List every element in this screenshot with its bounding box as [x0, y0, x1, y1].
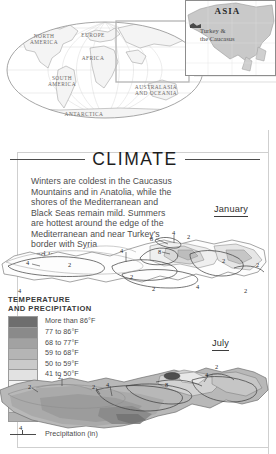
- legend-item: 68 to 77°F: [8, 338, 124, 349]
- precip-value: 2: [187, 234, 190, 240]
- precip-value: 2: [28, 384, 31, 390]
- page-title: CLIMATE: [92, 150, 178, 169]
- precip-value: 4: [26, 260, 29, 266]
- section-heading-row: CLIMATE: [10, 146, 260, 172]
- precip-value: 4: [196, 284, 199, 290]
- legend-swatch: [8, 316, 38, 327]
- precip-value: 4: [106, 382, 109, 388]
- precip-value: 2: [152, 286, 155, 292]
- precip-value: 8: [150, 236, 153, 242]
- inset-title: ASIA: [186, 6, 269, 16]
- legend-label: 77 to 86°F: [45, 327, 79, 338]
- legend-item: More than 86°F: [8, 316, 124, 327]
- precip-value: 4: [205, 372, 208, 378]
- july-map-graphic: [0, 356, 270, 452]
- precip-value: 4: [18, 288, 21, 294]
- legend-label: 68 to 77°F: [45, 338, 79, 349]
- precip-value: 2: [68, 262, 71, 268]
- asia-inset-map: ASIA Turkey & the Caucasus: [185, 0, 276, 76]
- legend-item: 77 to 86°F: [8, 327, 124, 338]
- precip-value: 4: [172, 230, 175, 236]
- world-locator-map: NORTH AMERICA SOUTH AMERICA EUROPE AFRIC…: [0, 0, 276, 136]
- map-label-january: January: [214, 204, 248, 217]
- july-climate-map: 2 2 2 4 8 4 2: [0, 356, 270, 452]
- precip-value: 2: [58, 374, 61, 380]
- precip-value: 4: [120, 248, 123, 254]
- precip-value: 2: [215, 364, 218, 370]
- heading-rule-left: [10, 159, 85, 160]
- precip-value: 8: [165, 382, 168, 388]
- legend-swatch: [8, 327, 38, 338]
- precip-value: 2: [256, 262, 259, 268]
- legend-swatch: [8, 338, 38, 349]
- precip-value: 2: [244, 288, 247, 294]
- precip-value: 2: [130, 274, 133, 280]
- january-map-graphic: [0, 218, 270, 296]
- legend-title: TEMPERATURE AND PRECIPITATION: [8, 295, 124, 313]
- precip-value: 8: [158, 249, 161, 255]
- january-climate-map: 8 4 2 4 8 4 2 2 2 2 2 4 2 4: [0, 218, 270, 296]
- climate-page: NORTH AMERICA SOUTH AMERICA EUROPE AFRIC…: [0, 0, 276, 454]
- map-label-july: July: [212, 338, 229, 351]
- inset-subtitle: Turkey & the Caucasus: [200, 27, 235, 42]
- precip-value: 2: [222, 258, 225, 264]
- precip-value: 2: [92, 384, 95, 390]
- legend-label: More than 86°F: [45, 316, 95, 327]
- heading-rule-right: [185, 159, 260, 160]
